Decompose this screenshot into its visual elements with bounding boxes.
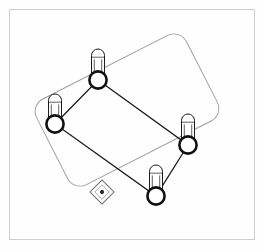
technical-drawing-svg[interactable]: [0, 0, 265, 250]
bolt-top-nut[interactable]: [89, 71, 106, 88]
bolt-bottom-nut[interactable]: [147, 187, 164, 204]
bolt-left[interactable]: [46, 94, 63, 133]
bolt-right[interactable]: [179, 114, 196, 154]
ucs-origin-marker[interactable]: [90, 180, 114, 204]
bolt-pattern-outline[interactable]: [55, 80, 188, 196]
drawing-viewer: 3D Model Viewport Isometric wireframe of…: [0, 0, 265, 250]
bolt-top[interactable]: [89, 49, 106, 89]
drawing-canvas[interactable]: [0, 0, 265, 250]
bolt-bottom[interactable]: [147, 165, 164, 205]
bolt-hole-pattern[interactable]: [55, 80, 188, 196]
bolt-right-nut[interactable]: [179, 136, 196, 153]
bolt-left-nut[interactable]: [46, 115, 63, 132]
